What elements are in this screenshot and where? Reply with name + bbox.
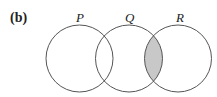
venn-diagram: P Q R <box>0 0 217 97</box>
set-label-r: R <box>175 10 184 25</box>
set-label-q: Q <box>125 10 135 25</box>
set-label-p: P <box>75 10 84 25</box>
circle-p <box>46 25 113 92</box>
